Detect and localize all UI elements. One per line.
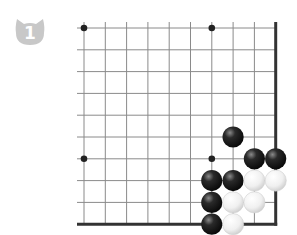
black-stone	[201, 170, 222, 191]
white-stone	[244, 170, 265, 191]
white-stone	[223, 214, 244, 235]
black-stone	[201, 214, 222, 235]
star-point-icon	[81, 156, 88, 163]
black-stone	[244, 148, 265, 169]
go-board[interactable]	[0, 0, 297, 235]
black-stone	[265, 148, 286, 169]
black-stone	[223, 170, 244, 191]
stones	[201, 126, 286, 234]
black-stone	[223, 126, 244, 147]
star-point-icon	[81, 25, 88, 32]
white-stone	[223, 192, 244, 213]
white-stone	[265, 170, 286, 191]
star-point-icon	[209, 25, 216, 32]
star-point-icon	[209, 156, 216, 163]
black-stone	[201, 192, 222, 213]
white-stone	[244, 192, 265, 213]
